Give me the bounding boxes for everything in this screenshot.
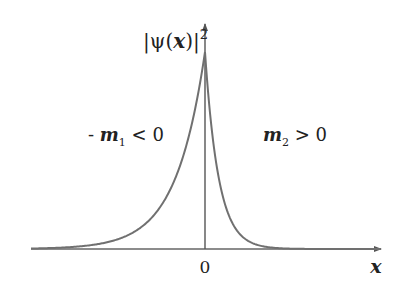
wavefunction-diagram: |ψ(x)|2 - m1 < 0 m2 > 0 0 x [0,0,407,290]
origin-tick-label: 0 [200,257,211,277]
x-axis-label: x [369,255,382,277]
y-axis-label: |ψ(x)|2 [143,27,208,54]
right-region-label: m2 > 0 [263,124,327,149]
left-region-label: - m1 < 0 [88,124,164,149]
